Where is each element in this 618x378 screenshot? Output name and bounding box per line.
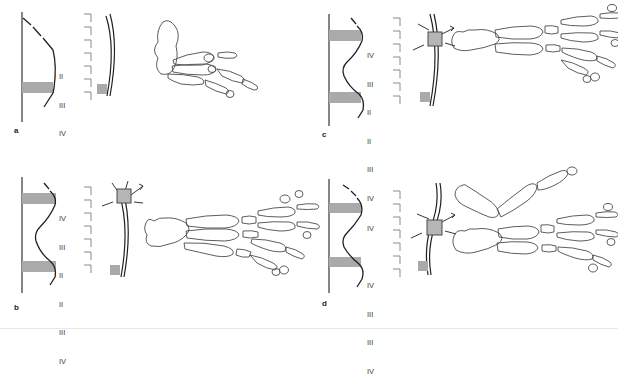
- panel-d-graphics: [309, 165, 618, 329]
- digit-label: III: [367, 80, 380, 90]
- digit-label: III: [59, 101, 72, 111]
- panel-a-graphics: [0, 0, 309, 164]
- digit-label: IV: [367, 367, 380, 377]
- skeleton-drawing-a: [155, 21, 258, 98]
- bud-band-b: [110, 265, 120, 275]
- expression-band-c-1: [329, 30, 361, 41]
- panel-letter-c: c: [322, 130, 326, 139]
- panel-letter-b: b: [14, 303, 19, 312]
- digit-label: III: [59, 328, 72, 338]
- bead-implant-d: [427, 220, 442, 235]
- digit-numerals-b: IV III II II III IV: [59, 195, 72, 378]
- bracket-column-b: [84, 187, 91, 273]
- figure-bottom-rule: [0, 328, 618, 329]
- digit-label: II: [367, 137, 380, 147]
- profile-contour-b-tip: [44, 183, 49, 189]
- digit-label: IV: [367, 281, 380, 291]
- digit-label: IV: [59, 129, 72, 139]
- bud-band-d: [418, 261, 428, 271]
- expression-band-a-1: [22, 82, 53, 93]
- expression-band-b-1: [22, 193, 56, 204]
- panel-b-graphics: [0, 165, 309, 329]
- skeleton-drawing-b: [145, 191, 320, 276]
- digit-label: II: [59, 300, 72, 310]
- digit-label: IV: [367, 51, 380, 61]
- bracket-column-a: [84, 14, 91, 100]
- profile-contour-d-tip: [343, 185, 349, 189]
- bud-band-c: [420, 92, 430, 102]
- bud-band-a: [97, 84, 107, 94]
- expression-band-d-1: [329, 203, 361, 213]
- digit-label: II: [59, 271, 72, 281]
- profile-contour-a-tip: [23, 18, 31, 25]
- panel-letter-a: a: [14, 126, 18, 135]
- profile-contour-c-tip: [351, 18, 356, 24]
- digit-label: III: [367, 310, 380, 320]
- bracket-column-d: [393, 191, 400, 277]
- limb-bud-outline-b-inner: [119, 193, 125, 277]
- skeleton-drawing-d-upper: [455, 167, 577, 218]
- digit-label: II: [367, 108, 380, 118]
- panel-d: IV IV III III IV d: [309, 165, 618, 329]
- profile-contour-a-mid: [53, 50, 55, 88]
- panel-a: II III IV a: [0, 0, 309, 164]
- limb-bud-outline-c-outer: [433, 14, 438, 106]
- digit-label: III: [59, 243, 72, 253]
- digit-numerals-d: IV IV III III IV: [367, 205, 380, 378]
- digit-label: IV: [367, 224, 380, 234]
- skeleton-drawing-d-lower: [453, 204, 618, 273]
- bead-implant-c: [428, 32, 442, 46]
- digit-label: II: [59, 72, 72, 82]
- profile-contour-a-dash1: [33, 27, 41, 36]
- bracket-column-c: [393, 18, 400, 104]
- digit-label: III: [367, 338, 380, 348]
- profile-contour-a-dash2: [43, 38, 53, 50]
- panel-letter-d: d: [322, 299, 327, 308]
- panel-c: IV III II II III IV c: [309, 0, 618, 164]
- bead-implant-b: [117, 189, 131, 203]
- profile-contour-d-dash: [351, 191, 356, 196]
- panel-b: IV III II II III IV b: [0, 165, 309, 329]
- digit-label: IV: [59, 214, 72, 224]
- skeleton-drawing-c: [452, 5, 618, 83]
- expression-band-c-2: [329, 92, 361, 103]
- digit-label: IV: [59, 357, 72, 367]
- digit-numerals-a: II III IV: [59, 53, 72, 158]
- panel-c-graphics: [309, 0, 618, 164]
- limb-bud-outline-c-inner: [430, 14, 435, 106]
